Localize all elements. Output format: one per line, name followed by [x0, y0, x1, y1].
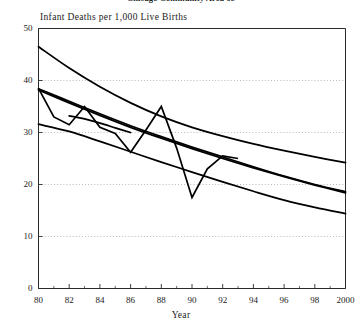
- x-tick-label-1980: 80: [24, 295, 54, 305]
- x-tick-label-1992: 92: [208, 295, 238, 305]
- y-tick-label-50: 50: [11, 23, 33, 33]
- x-tick-label-1986: 86: [116, 295, 146, 305]
- x-tick-label-1988: 88: [146, 295, 176, 305]
- x-tick-label-1994: 94: [238, 295, 268, 305]
- x-tick-label-1996: 96: [269, 295, 299, 305]
- plot-frame: [39, 29, 346, 289]
- y-tick-label-30: 30: [11, 127, 33, 137]
- y-tick-label-0: 0: [11, 283, 33, 293]
- x-tick-label-2000: 2000: [331, 295, 361, 305]
- axis-ticks: [39, 29, 346, 289]
- series-trend-middle-a: [39, 89, 346, 192]
- x-tick-label-1982: 82: [54, 295, 84, 305]
- series-trend-upper: [39, 47, 346, 163]
- x-tick-label-1990: 90: [177, 295, 207, 305]
- y-tick-label-20: 20: [11, 179, 33, 189]
- chart-container: Chicago Community Area 68 Infant Deaths …: [0, 0, 362, 332]
- x-tick-label-1984: 84: [85, 295, 115, 305]
- x-tick-label-1998: 98: [300, 295, 330, 305]
- series-trend-lower: [39, 124, 346, 213]
- y-tick-label-40: 40: [11, 75, 33, 85]
- series-observed-rate: [39, 88, 239, 197]
- axis-frame: [39, 29, 346, 289]
- y-tick-label-10: 10: [11, 231, 33, 241]
- gridlines: [39, 29, 346, 237]
- plot-area: [0, 0, 362, 332]
- data-series-layer: [39, 47, 346, 214]
